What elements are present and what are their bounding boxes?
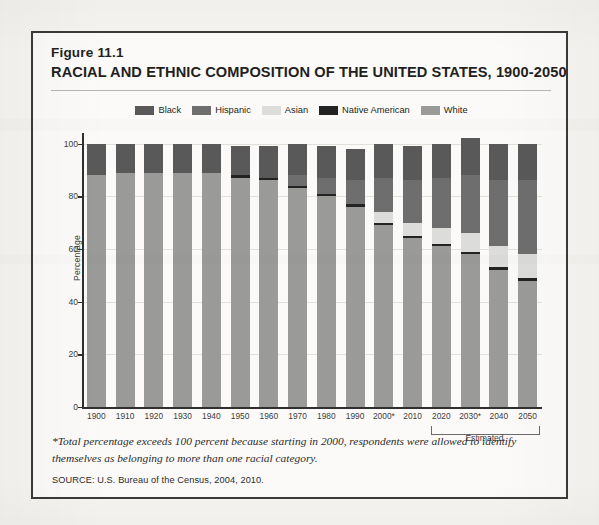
bar-segment-hispanic[interactable]	[403, 180, 422, 222]
figure-page: Figure 11.1 RACIAL AND ETHNIC COMPOSITIO…	[0, 0, 599, 525]
figure-frame: Figure 11.1 RACIAL AND ETHNIC COMPOSITIO…	[31, 31, 568, 499]
bar-segment-native-american[interactable]	[489, 267, 508, 270]
bar-segment-asian[interactable]	[432, 228, 451, 244]
stacked-bar[interactable]	[87, 144, 106, 407]
stacked-bar[interactable]	[317, 146, 336, 407]
bar-segment-black[interactable]	[116, 144, 135, 173]
footnote-text: *Total percentage exceeds 100 percent be…	[52, 433, 550, 466]
y-axis-tick-label: 0	[38, 402, 78, 412]
legend-item-label: Asian	[285, 105, 308, 115]
stacked-bar[interactable]	[288, 144, 307, 407]
stacked-bar[interactable]	[346, 149, 365, 407]
stacked-bar[interactable]	[173, 144, 192, 407]
bar-segment-black[interactable]	[173, 144, 192, 173]
y-axis-tick-label: 60	[38, 244, 78, 254]
bar-segment-black[interactable]	[288, 144, 307, 176]
bar-segment-hispanic[interactable]	[432, 178, 451, 228]
bar-segment-native-american[interactable]	[346, 204, 365, 207]
bar-segment-hispanic[interactable]	[489, 180, 508, 246]
bar-segment-native-american[interactable]	[288, 186, 307, 189]
bar-segment-black[interactable]	[518, 144, 537, 181]
bar-segment-asian[interactable]	[403, 223, 422, 236]
legend-swatch-icon	[421, 106, 440, 115]
bar-segment-native-american[interactable]	[317, 194, 336, 197]
bar-segment-white[interactable]	[173, 173, 192, 407]
stacked-bar[interactable]	[461, 138, 480, 407]
legend-swatch-icon	[262, 106, 281, 115]
bar-segment-hispanic[interactable]	[288, 175, 307, 186]
x-axis-line	[82, 407, 542, 409]
y-axis-tick-label: 80	[38, 191, 78, 201]
bar-segment-white[interactable]	[489, 270, 508, 407]
bar-segment-hispanic[interactable]	[518, 180, 537, 254]
bar-segment-black[interactable]	[346, 149, 365, 181]
bar-segment-hispanic[interactable]	[374, 178, 393, 212]
bar-segment-black[interactable]	[461, 138, 480, 175]
figure-number: Figure 11.1	[51, 45, 124, 60]
chart-legend: BlackHispanicAsianNative AmericanWhite	[33, 105, 570, 115]
bar-segment-white[interactable]	[87, 175, 106, 407]
plot-area-wrapper: Percentage 02040608010019001910192019301…	[33, 125, 570, 415]
bar-segment-hispanic[interactable]	[317, 178, 336, 194]
bar-segment-white[interactable]	[144, 173, 163, 407]
bar-segment-black[interactable]	[144, 144, 163, 173]
bar-segment-native-american[interactable]	[461, 252, 480, 255]
bar-segment-white[interactable]	[202, 173, 221, 407]
bar-segment-hispanic[interactable]	[461, 175, 480, 233]
bar-segment-white[interactable]	[461, 254, 480, 407]
legend-item-label: Native American	[342, 105, 410, 115]
figure-title: RACIAL AND ETHNIC COMPOSITION OF THE UNI…	[51, 64, 567, 80]
bar-segment-asian[interactable]	[518, 254, 537, 278]
bar-segment-native-american[interactable]	[259, 178, 278, 181]
stacked-bar[interactable]	[374, 144, 393, 407]
x-axis-tick-label: 2050	[508, 411, 548, 421]
bar-segment-black[interactable]	[489, 144, 508, 181]
bar-segment-black[interactable]	[87, 144, 106, 176]
y-axis-tick	[78, 144, 82, 145]
bar-segment-native-american[interactable]	[432, 244, 451, 247]
bar-segment-hispanic[interactable]	[346, 180, 365, 204]
stacked-bar[interactable]	[231, 146, 250, 407]
legend-swatch-icon	[135, 106, 154, 115]
stacked-bar[interactable]	[432, 144, 451, 407]
bar-segment-white[interactable]	[317, 196, 336, 407]
bar-segment-native-american[interactable]	[518, 278, 537, 281]
stacked-bar[interactable]	[116, 144, 135, 407]
bar-segment-black[interactable]	[317, 146, 336, 178]
bar-segment-white[interactable]	[346, 207, 365, 407]
bar-segment-asian[interactable]	[374, 212, 393, 223]
bar-segment-asian[interactable]	[461, 233, 480, 251]
bar-segment-native-american[interactable]	[403, 236, 422, 239]
y-axis-label: Percentage	[72, 218, 82, 298]
stacked-bar[interactable]	[403, 146, 422, 407]
y-axis-tick	[78, 407, 82, 408]
bar-segment-white[interactable]	[231, 178, 250, 407]
stacked-bar[interactable]	[144, 144, 163, 407]
bar-segment-black[interactable]	[259, 146, 278, 178]
legend-item-white: White	[421, 105, 468, 115]
source-text: SOURCE: U.S. Bureau of the Census, 2004,…	[52, 475, 550, 485]
stacked-bar[interactable]	[489, 144, 508, 407]
y-axis-tick	[78, 302, 82, 303]
bar-segment-asian[interactable]	[489, 246, 508, 267]
stacked-bar[interactable]	[202, 144, 221, 407]
bar-segment-black[interactable]	[403, 146, 422, 180]
bar-segment-native-american[interactable]	[374, 223, 393, 226]
bar-segment-white[interactable]	[518, 281, 537, 407]
bar-segment-white[interactable]	[259, 180, 278, 407]
bar-segment-black[interactable]	[202, 144, 221, 173]
bar-segment-black[interactable]	[231, 146, 250, 175]
bar-segment-white[interactable]	[116, 173, 135, 407]
stacked-bar[interactable]	[518, 144, 537, 407]
bar-segment-white[interactable]	[403, 238, 422, 407]
bar-segment-black[interactable]	[374, 144, 393, 178]
legend-swatch-icon	[319, 106, 338, 115]
bar-segment-native-american[interactable]	[231, 175, 250, 178]
plot-area: 0204060801001900191019201930194019501960…	[82, 133, 542, 407]
legend-item-label: Black	[158, 105, 181, 115]
stacked-bar[interactable]	[259, 146, 278, 407]
bar-segment-white[interactable]	[288, 188, 307, 407]
bar-segment-white[interactable]	[374, 225, 393, 407]
bar-segment-white[interactable]	[432, 246, 451, 407]
bar-segment-black[interactable]	[432, 144, 451, 178]
